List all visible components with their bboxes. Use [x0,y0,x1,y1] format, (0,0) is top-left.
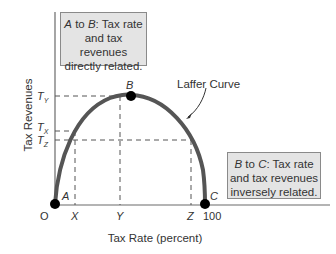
arrow-head-icon [186,113,192,119]
point-a-marker [50,199,60,209]
point-a-label: A [61,190,69,202]
y-tick-tx: TX [37,121,49,135]
point-c-marker [200,199,210,209]
point-b-marker [126,91,136,101]
y-tick-ty: TY [37,90,50,104]
x-axis-title: Tax Rate (percent) [108,232,203,244]
y-axis-title: Tax Revenues [22,78,34,151]
x-tick-100: 100 [203,210,221,222]
annotation-a-to-b: A to B: Tax rate and tax revenues direct… [60,12,147,66]
laffer-curve [55,95,205,204]
annotation-b-to-c-line3: inversely related. [228,185,320,199]
point-c-label: C [210,190,218,202]
point-b-label: B [126,79,133,91]
annotation-a-to-b-line1: A to B: Tax rate [61,17,146,31]
annotation-b-to-c-line1: B to C: Tax rate [228,157,320,171]
annotation-b-to-c: B to C: Tax rate and tax revenues invers… [227,152,321,199]
annotation-b-to-c-line2: and tax revenues [228,171,320,185]
y-tick-tz: TZ [37,134,49,148]
curve-label-arrow [188,88,206,117]
x-tick-z: Z [186,210,195,222]
x-tick-y: Y [116,210,124,222]
annotation-a-to-b-line3: directly related. [61,59,146,73]
annotation-a-to-b-line2: and tax revenues [61,31,146,59]
x-tick-x: X [70,210,79,222]
x-tick-origin: O [40,210,49,222]
curve-label: Laffer Curve [177,78,240,90]
laffer-chart: A B C Laffer Curve O X Y Z 100 TY TX TZ … [0,0,336,254]
